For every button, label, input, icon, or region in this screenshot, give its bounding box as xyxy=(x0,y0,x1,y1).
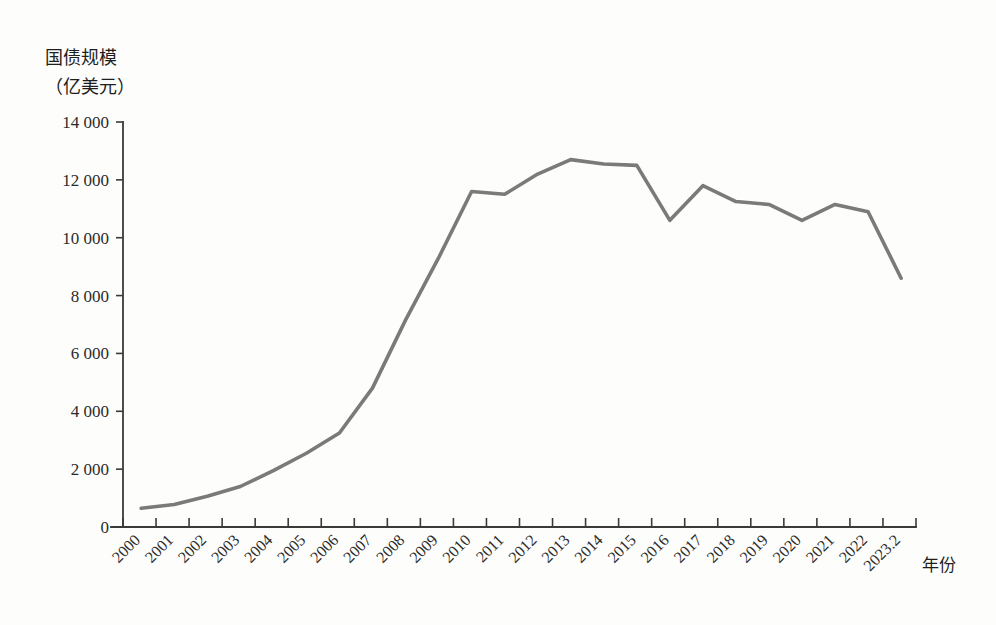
x-tick-label: 2021 xyxy=(803,531,838,566)
x-tick-labels: 2000200120022003200420052006200720082009… xyxy=(109,531,904,574)
x-tick-label: 2001 xyxy=(142,531,177,566)
x-tick-label: 2010 xyxy=(439,531,474,566)
y-tick-label: 12 000 xyxy=(62,171,109,190)
x-tick-label: 2016 xyxy=(637,531,672,566)
x-tick-label: 2003 xyxy=(208,531,243,566)
y-tick-label: 6 000 xyxy=(71,344,109,363)
y-tick-label: 0 xyxy=(101,518,110,537)
x-tick-label: 2014 xyxy=(571,531,606,566)
x-tick-label: 2013 xyxy=(538,531,573,566)
x-tick-label: 2015 xyxy=(604,531,639,566)
x-tick-label: 2011 xyxy=(473,531,507,565)
x-tick-label: 2019 xyxy=(736,531,771,566)
data-series-line xyxy=(141,160,901,509)
axis-titles: 国债规模 （亿美元） 年份 xyxy=(45,48,956,575)
y-axis-unit-label: （亿美元） xyxy=(45,77,135,97)
y-tick-labels: 02 0004 0006 0008 00010 00012 00014 000 xyxy=(62,113,109,537)
y-tick-label: 2 000 xyxy=(71,460,109,479)
x-tick-label: 2009 xyxy=(406,531,441,566)
y-tick-marks xyxy=(116,122,123,527)
x-tick-label: 2005 xyxy=(274,531,309,566)
chart-container: 国债规模 （亿美元） 年份 02 0004 0006 0008 00010 00… xyxy=(0,0,996,625)
y-tick-label: 10 000 xyxy=(62,229,109,248)
y-axis-title: 国债规模 xyxy=(45,48,117,68)
line-chart: 国债规模 （亿美元） 年份 02 0004 0006 0008 00010 00… xyxy=(0,0,996,625)
y-tick-label: 8 000 xyxy=(71,287,109,306)
x-tick-label: 2006 xyxy=(307,531,342,566)
x-tick-marks xyxy=(123,518,916,527)
x-tick-label: 2007 xyxy=(340,531,375,566)
x-tick-label: 2017 xyxy=(670,531,705,566)
x-tick-label: 2008 xyxy=(373,531,408,566)
x-tick-label: 2004 xyxy=(241,531,276,566)
x-tick-label: 2020 xyxy=(769,531,804,566)
x-tick-label: 2002 xyxy=(175,531,210,566)
y-tick-label: 14 000 xyxy=(62,113,109,132)
x-tick-label: 2018 xyxy=(703,531,738,566)
x-tick-label: 2000 xyxy=(109,531,144,566)
x-tick-label: 2023.2 xyxy=(860,531,903,574)
x-tick-label: 2012 xyxy=(505,531,540,566)
x-axis-title: 年份 xyxy=(922,556,956,575)
y-tick-label: 4 000 xyxy=(71,402,109,421)
